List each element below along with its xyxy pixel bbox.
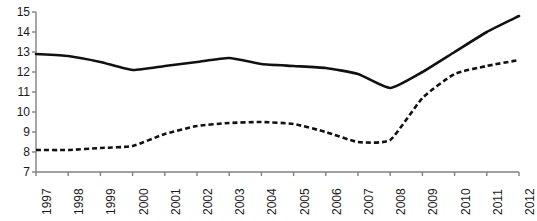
y-axis-tick-label: 12: [8, 66, 30, 78]
y-axis-tick-label: 13: [8, 46, 30, 58]
x-axis-tick-label: 2008: [395, 188, 407, 215]
chart-axes: [32, 12, 519, 176]
chart-series: [36, 16, 519, 150]
x-axis-tick-label: 2004: [266, 188, 278, 215]
x-axis-tick-label: 2011: [492, 189, 504, 215]
y-axis-tick-label: 10: [8, 106, 30, 118]
y-axis-tick-label: 8: [8, 146, 30, 158]
y-axis-tick-label: 9: [8, 126, 30, 138]
x-axis-tick-label: 2002: [202, 188, 214, 215]
series-line-solid-series: [36, 16, 519, 88]
x-axis-tick-label: 2012: [524, 188, 536, 215]
x-axis-tick-label: 2006: [331, 188, 343, 215]
x-axis-tick-label: 1998: [73, 188, 85, 215]
series-line-dashed-series: [36, 60, 519, 150]
x-axis-tick-label: 2000: [138, 188, 150, 215]
y-axis-tick-label: 15: [8, 6, 30, 18]
y-axis-tick-label: 11: [8, 86, 30, 98]
x-axis-tick-label: 1999: [105, 188, 117, 215]
x-axis-tick-label: 2009: [427, 188, 439, 215]
y-axis-tick-label: 7: [8, 166, 30, 178]
y-axis-tick-label: 14: [8, 26, 30, 38]
x-axis-tick-label: 1997: [41, 188, 53, 215]
x-axis-tick-label: 2005: [299, 188, 311, 215]
x-axis-tick-label: 2001: [170, 188, 182, 215]
x-axis-tick-label: 2007: [363, 188, 375, 215]
x-axis-tick-label: 2010: [460, 188, 472, 215]
x-axis-tick-label: 2003: [234, 188, 246, 215]
